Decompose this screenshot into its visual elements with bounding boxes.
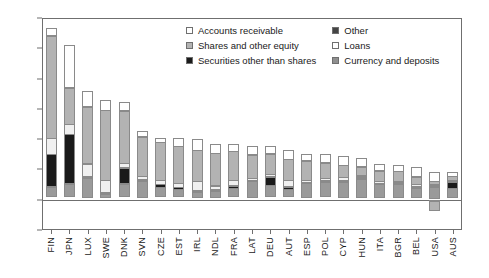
legend-swatch-icon [332, 42, 339, 49]
legend-item[interactable]: Accounts receivable [186, 24, 316, 37]
bar-segment [100, 180, 111, 193]
bar-segment [192, 139, 203, 150]
x-tick-label-cze: CZE [156, 237, 166, 256]
x-tick-mark [142, 230, 143, 234]
bar-segment [173, 146, 184, 184]
bar-segment [265, 154, 276, 175]
bar-segment [119, 168, 130, 185]
bar-segment [100, 100, 111, 111]
bar-segment [137, 137, 148, 177]
x-tick-label-pol: POL [320, 237, 330, 256]
bar-bgr[interactable] [393, 165, 404, 200]
legend-label: Other [344, 24, 368, 37]
bar-segment [46, 36, 57, 139]
x-tick-mark [252, 230, 253, 234]
bar-segment [301, 161, 312, 181]
x-tick-mark [51, 230, 52, 234]
bar-segment [119, 111, 130, 164]
bar-segment [228, 151, 239, 181]
bar-lat[interactable] [247, 146, 258, 199]
x-tick-mark [215, 230, 216, 234]
x-tick-label-fra: FRA [229, 237, 239, 256]
bar-dnk[interactable] [119, 102, 130, 200]
bar-est[interactable] [173, 138, 184, 200]
legend-item[interactable]: Other [332, 24, 439, 37]
x-tick-mark [197, 230, 198, 234]
x-tick-label-jpn: JPN [64, 237, 74, 255]
bar-segment [46, 138, 57, 155]
bar-segment [429, 187, 440, 198]
bar-segment [192, 150, 203, 182]
bar-aus[interactable] [447, 172, 458, 199]
x-tick-mark [124, 230, 125, 234]
bar-segment [247, 155, 258, 179]
bar-segment [320, 182, 331, 197]
legend-swatch-icon [332, 57, 339, 64]
x-tick-mark [234, 230, 235, 234]
bar-hun[interactable] [356, 158, 367, 200]
bar-segment [64, 88, 75, 125]
x-tick-mark [325, 230, 326, 234]
bar-cze[interactable] [155, 138, 166, 200]
bar-segment [283, 159, 294, 181]
x-tick-label-fin: FIN [46, 237, 56, 252]
bar-lux[interactable] [82, 91, 93, 199]
x-tick-label-deu: DEU [265, 237, 275, 257]
bar-pol[interactable] [320, 154, 331, 199]
bar-segment [46, 187, 57, 198]
legend-label: Securities other than shares [198, 54, 316, 67]
bar-segment [356, 179, 367, 198]
legend-item[interactable]: Loans [332, 39, 439, 52]
x-tick-mark [289, 230, 290, 234]
legend-label: Accounts receivable [198, 24, 283, 37]
bar-cyp[interactable] [338, 156, 349, 200]
bar-segment [411, 188, 422, 198]
bar-svn[interactable] [137, 131, 148, 199]
x-tick-label-svn: SVN [137, 237, 147, 256]
bar-segment [119, 184, 130, 198]
bar-aut[interactable] [283, 150, 294, 200]
legend-label: Shares and other equity [198, 39, 299, 52]
legend-label: Currency and deposits [344, 54, 439, 67]
bar-segment [64, 184, 75, 198]
bar-irl[interactable] [192, 139, 203, 200]
bar-esp[interactable] [301, 154, 312, 199]
bar-segment [374, 171, 385, 182]
bar-fin[interactable] [46, 28, 57, 200]
bar-bel[interactable] [411, 167, 422, 200]
bar-segment [82, 178, 93, 198]
bar-segment [265, 185, 276, 197]
legend-item[interactable]: Securities other than shares [186, 54, 316, 67]
y-axis: 120100806040200-20 [0, 0, 42, 278]
x-tick-label-dnk: DNK [119, 237, 129, 257]
x-tick-mark [453, 230, 454, 234]
chart-legend: Accounts receivableOtherShares and other… [186, 24, 439, 67]
bar-segment [82, 91, 93, 107]
bar-segment [411, 167, 422, 178]
bar-fra[interactable] [228, 144, 239, 200]
x-tick-mark [106, 230, 107, 234]
bar-ndl[interactable] [210, 144, 221, 200]
x-tick-mark [343, 230, 344, 234]
x-tick-label-esp: ESP [302, 237, 312, 256]
chart-container: 120100806040200-20 FINJPNLUXSWEDNKSVNCZE… [0, 0, 489, 278]
x-tick-mark [88, 230, 89, 234]
bar-segment [64, 45, 75, 89]
bar-negative-usa[interactable] [429, 200, 440, 212]
bar-deu[interactable] [265, 146, 276, 200]
x-tick-label-est: EST [174, 237, 184, 255]
legend-item[interactable]: Shares and other equity [186, 39, 316, 52]
bar-jpn[interactable] [64, 45, 75, 200]
bar-segment [283, 189, 294, 197]
bar-segment [155, 187, 166, 197]
bar-segment [228, 188, 239, 197]
bar-swe[interactable] [100, 100, 111, 200]
bar-segment [338, 165, 349, 178]
x-tick-mark [398, 230, 399, 234]
bar-ita[interactable] [374, 164, 385, 200]
bar-usa[interactable] [429, 172, 440, 199]
x-tick-mark [161, 230, 162, 234]
bar-segment [155, 142, 166, 181]
bar-segment [173, 189, 184, 197]
legend-item[interactable]: Currency and deposits [332, 54, 439, 67]
